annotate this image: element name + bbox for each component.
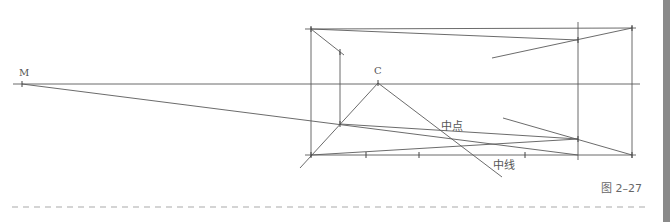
right-top-diag (492, 28, 632, 58)
label-midpoint: 中点 (441, 121, 463, 132)
C-right-diag-midline (378, 83, 502, 177)
perspective-diagram (0, 0, 670, 222)
diag-top-left (311, 29, 344, 55)
figure-caption: 图 2–27 (601, 183, 642, 194)
page-edge-bar (663, 0, 670, 222)
label-midline: 中线 (493, 160, 515, 171)
construction-lines (13, 22, 640, 177)
right-lower-diag (503, 118, 632, 155)
label-M: M (19, 68, 29, 78)
rect-top-edge (305, 28, 636, 29)
label-C: C (374, 66, 382, 76)
bottom-left-line (311, 139, 578, 155)
top-converge (311, 29, 578, 40)
